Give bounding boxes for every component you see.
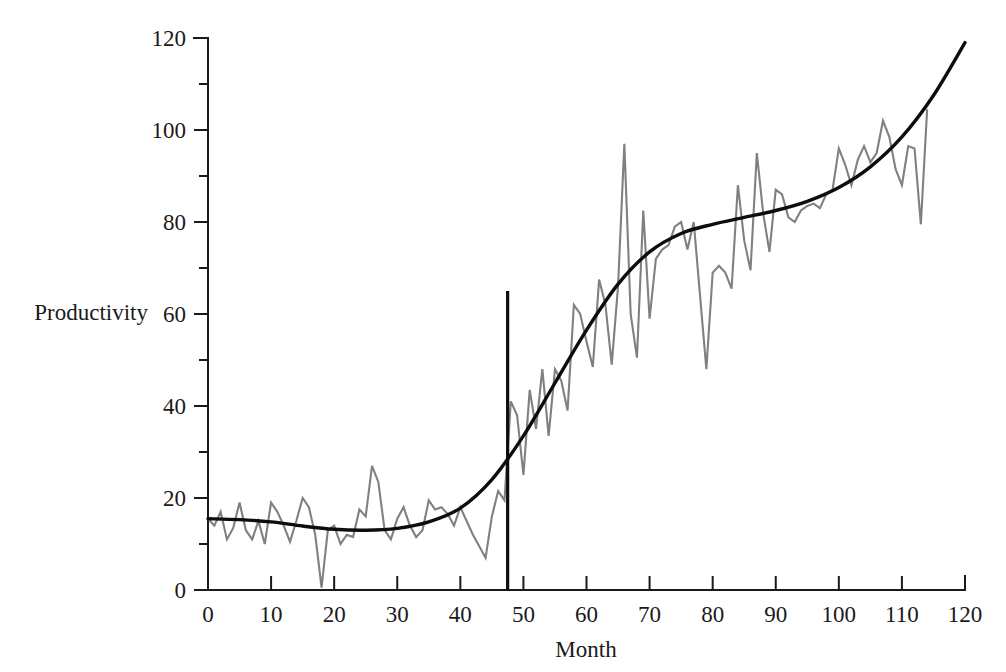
y-tick-label-20: 20	[163, 486, 186, 511]
y-tick-label-120: 120	[152, 26, 187, 51]
y-tick-label-80: 80	[163, 210, 186, 235]
y-tick-label-100: 100	[152, 118, 187, 143]
chart-canvas: 020406080100120 010203040506070809010011…	[0, 0, 1006, 672]
chart-background	[0, 0, 1006, 672]
y-tick-label-0: 0	[175, 578, 187, 603]
x-tick-label-0: 0	[202, 602, 214, 627]
x-tick-label-110: 110	[885, 602, 919, 627]
x-axis-title: Month	[555, 637, 617, 662]
x-tick-label-50: 50	[512, 602, 535, 627]
y-tick-label-40: 40	[163, 394, 186, 419]
x-tick-label-20: 20	[323, 602, 346, 627]
productivity-chart-figure: 020406080100120 010203040506070809010011…	[0, 0, 1006, 672]
x-tick-label-10: 10	[260, 602, 283, 627]
x-tick-label-80: 80	[701, 602, 724, 627]
y-tick-label-60: 60	[163, 302, 186, 327]
x-tick-label-70: 70	[638, 602, 661, 627]
x-tick-label-30: 30	[386, 602, 409, 627]
y-axis-title: Productivity	[34, 300, 148, 325]
x-tick-label-120: 120	[948, 602, 983, 627]
x-tick-label-40: 40	[449, 602, 472, 627]
x-tick-label-60: 60	[575, 602, 598, 627]
x-tick-label-90: 90	[764, 602, 787, 627]
x-tick-label-100: 100	[822, 602, 857, 627]
